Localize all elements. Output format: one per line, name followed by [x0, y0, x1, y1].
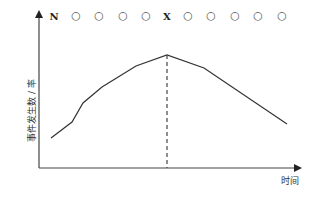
- sequence-label-x: X: [163, 11, 171, 22]
- sequence-circle: ○: [183, 9, 193, 22]
- sequence-label-n: N: [49, 11, 58, 22]
- sequence-circle: ○: [277, 9, 287, 22]
- diagram-canvas: [0, 0, 322, 198]
- sequence-circle: ○: [94, 9, 104, 22]
- sequence-circle: ○: [71, 9, 81, 22]
- y-axis-label: 事件发生数 / 率: [25, 66, 38, 156]
- x-axis-label: 时间: [281, 174, 299, 187]
- sequence-circle: ○: [230, 9, 240, 22]
- event-curve: [51, 55, 287, 138]
- diagram: N○○○○X○○○○○ 事件发生数 / 率 时间: [0, 0, 322, 198]
- sequence-circle: ○: [118, 9, 128, 22]
- sequence-circle: ○: [206, 9, 216, 22]
- sequence-circle: ○: [141, 9, 151, 22]
- sequence-circle: ○: [253, 9, 263, 22]
